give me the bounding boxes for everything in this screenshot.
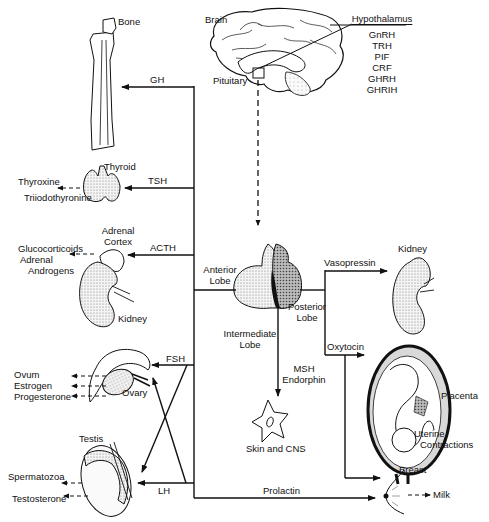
msh-label: MSH [282, 364, 326, 375]
output-adrenal-line2: Androgens [20, 266, 74, 277]
skin-cell-illustration [252, 400, 288, 442]
hormone-tsh-label: TSH [148, 176, 167, 187]
anterior-lobe-label: Anterior Lobe [200, 265, 240, 286]
anterior-lobe-label-line1: Anterior [200, 265, 240, 276]
posterior-lobe-label: Posterior Lobe [284, 302, 330, 323]
pituitary-gland-illustration [234, 244, 302, 309]
hypothalamus-hormone-gnrh: GnRH [342, 30, 422, 41]
uterine-contractions-label: Uterine Contractions [414, 429, 473, 450]
hypothalamus-hormone-crf: CRF [342, 63, 422, 74]
hypothalamus-hormone-ghrih: GHRIH [342, 85, 422, 96]
uterine-label-line2: Contractions [414, 440, 473, 451]
skin-cns-label: Skin and CNS [246, 444, 306, 455]
output-adrenal-line1: Adrenal [20, 255, 74, 266]
hormone-oxytocin-label: Oxytocin [327, 342, 364, 353]
hormone-gh-label: GH [150, 75, 164, 86]
placenta-label: Placenta [441, 391, 478, 402]
output-progesterone: Progesterone [14, 392, 71, 403]
hormone-acth-label: ACTH [150, 243, 176, 254]
output-milk: Milk [433, 490, 450, 501]
output-triiodothyronine: Triiodothyronine [24, 193, 92, 204]
testis-label: Testis [79, 434, 103, 445]
anterior-lobe-label-line2: Lobe [200, 276, 240, 287]
output-glucocorticoids: Glucocorticoids [18, 244, 83, 255]
output-estrogen: Estrogen [14, 381, 52, 392]
pituitary-label: Pituitary [213, 76, 247, 87]
intermediate-lobe-label: Intermediate Lobe [222, 329, 278, 350]
kidney-left-label: Kidney [118, 314, 147, 325]
hypothalamus-hormone-trh: TRH [342, 41, 422, 52]
brain-label: Brain [205, 15, 227, 26]
hypothalamus-title: Hypothalamus [342, 14, 422, 25]
kidney-right-illustration [393, 258, 434, 334]
kidney-right-label: Kidney [398, 244, 427, 255]
output-thyroxine: Thyroxine [18, 177, 60, 188]
adrenal-cortex-label: Adrenal Cortex [98, 226, 138, 247]
ovary-label: Ovary [122, 388, 147, 399]
adrenal-cortex-label-line2: Cortex [98, 237, 138, 248]
hormone-fsh-label: FSH [166, 354, 185, 365]
breast-label: Breast [399, 465, 426, 476]
output-testosterone: Testosterone [12, 494, 66, 505]
output-adrenal-androgens: Adrenal Androgens [20, 255, 74, 276]
hormone-vasopressin-label: Vasopressin [324, 258, 376, 269]
hormone-prolactin-label: Prolactin [263, 486, 300, 497]
hypothalamus-hormone-ghrh: GHRH [342, 74, 422, 85]
testis-illustration [74, 440, 139, 522]
bone-illustration [90, 18, 116, 150]
uterine-label-line1: Uterine [414, 429, 473, 440]
hypothalamus-hormone-pif: PIF [342, 52, 422, 63]
posterior-lobe-label-line1: Posterior [284, 302, 330, 313]
adrenal-cortex-label-line1: Adrenal [98, 226, 138, 237]
breast-illustration [384, 470, 405, 514]
posterior-lobe-label-line2: Lobe [284, 313, 330, 324]
msh-endorphin-label: MSH Endorphin [282, 364, 326, 385]
output-spermatozoa: Spermatozoa [8, 472, 65, 483]
output-ovum: Ovum [14, 370, 39, 381]
hormone-lh-label: LH [158, 486, 170, 497]
pituitary-hormone-diagram: Brain Pituitary Hypothalamus GnRH TRH PI… [0, 0, 489, 522]
intermediate-lobe-label-line2: Lobe [222, 340, 278, 351]
thyroid-label: Thyroid [104, 162, 136, 173]
bone-label: Bone [118, 17, 140, 28]
endorphin-label: Endorphin [282, 375, 326, 386]
intermediate-lobe-label-line1: Intermediate [222, 329, 278, 340]
